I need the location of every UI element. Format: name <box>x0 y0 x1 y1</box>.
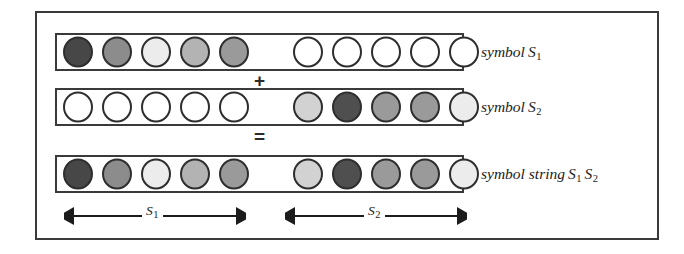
symbol-row-2-cells <box>57 90 462 124</box>
row-3-label-subscript-2: 2 <box>592 173 598 184</box>
equals-operator: = <box>55 127 464 146</box>
symbol-row-1-band <box>55 33 464 71</box>
symbol-cell <box>180 92 210 123</box>
symbol-cell <box>371 92 401 123</box>
symbol-cell <box>180 37 210 68</box>
row-2-label-text: symbol <box>481 98 525 115</box>
symbol-row-3-cells <box>57 157 462 191</box>
symbol-cell <box>410 37 440 68</box>
symbol-cell <box>332 159 362 190</box>
symbol-cell <box>141 92 171 123</box>
symbol-cell <box>219 159 249 190</box>
row-1-label: symbolS1 <box>481 43 541 62</box>
row-1-label-symbol: S <box>525 43 536 60</box>
symbol-cell <box>102 159 132 190</box>
row-3-label-text: symbol string <box>481 165 565 182</box>
symbol-row-3-band <box>55 155 464 193</box>
row-2-label-subscript: 2 <box>536 106 542 117</box>
row-2-label: symbolS2 <box>481 98 541 117</box>
symbol-cell <box>371 159 401 190</box>
symbol-cell <box>371 37 401 68</box>
symbol-cell <box>410 92 440 123</box>
span-label-s2-symbol: S <box>368 203 375 218</box>
symbol-cell <box>102 92 132 123</box>
symbol-cell <box>332 92 362 123</box>
symbol-cell <box>141 37 171 68</box>
span-label-s2-subscript: 2 <box>375 209 381 220</box>
row-3-label-symbol-2: S <box>581 165 592 182</box>
symbol-row-2-band <box>55 88 464 126</box>
symbol-concatenation-diagram: symbolS1 + symbolS2 = symbol stringS1S2 <box>0 0 684 254</box>
symbol-cell <box>102 37 132 68</box>
symbol-cell <box>63 159 93 190</box>
symbol-cell <box>410 159 440 190</box>
symbol-cell <box>293 92 323 123</box>
symbol-cell <box>449 37 479 68</box>
row-2-label-symbol: S <box>525 98 536 115</box>
symbol-cell <box>219 92 249 123</box>
symbol-cell <box>180 159 210 190</box>
row-3-label-symbol: S <box>565 165 576 182</box>
span-label-s1-subscript: 1 <box>153 209 159 220</box>
row-3-label: symbol stringS1S2 <box>481 165 598 184</box>
symbol-cell <box>141 159 171 190</box>
symbol-row-1-cells <box>57 35 462 69</box>
symbol-cell <box>219 37 249 68</box>
symbol-cell <box>293 37 323 68</box>
symbol-cell <box>449 92 479 123</box>
symbol-cell <box>293 159 323 190</box>
symbol-cell <box>449 159 479 190</box>
symbol-cell <box>332 37 362 68</box>
symbol-cell <box>63 37 93 68</box>
row-1-label-subscript: 1 <box>536 51 542 62</box>
symbol-cell <box>63 92 93 123</box>
span-label-s1-symbol: S <box>146 203 153 218</box>
span-label-s1: S1 <box>142 203 163 220</box>
row-1-label-text: symbol <box>481 43 525 60</box>
span-label-s2: S2 <box>364 203 385 220</box>
